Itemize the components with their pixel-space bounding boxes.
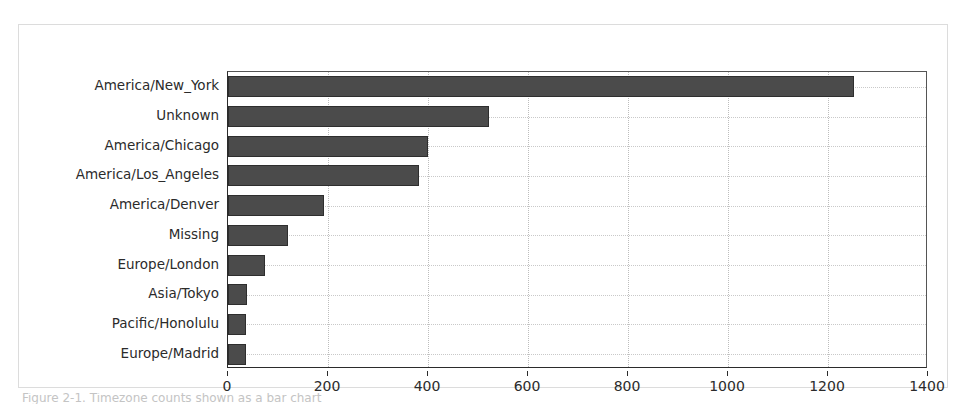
- x-axis-tick-label: 0: [223, 378, 232, 394]
- x-axis-tick-label: 800: [614, 378, 641, 394]
- y-axis-tick-label: America/Denver: [110, 194, 222, 215]
- x-axis-tick-mark: [227, 371, 228, 376]
- y-axis-tick-label: America/Los_Angeles: [76, 164, 222, 185]
- figure-frame: Europe/MadridPacific/HonoluluAsia/TokyoE…: [18, 24, 948, 388]
- bar-series: [228, 72, 926, 367]
- x-axis-tick-mark: [427, 371, 428, 376]
- x-axis-tick-mark: [527, 371, 528, 376]
- y-axis-tick-label: Asia/Tokyo: [148, 283, 222, 304]
- bar: [228, 195, 324, 216]
- bar: [228, 344, 246, 365]
- x-axis-tick-label: 1000: [709, 378, 745, 394]
- x-axis-tick-mark: [927, 371, 928, 376]
- y-axis-tick-label: America/New_York: [94, 75, 222, 96]
- y-axis-tick-label: Missing: [169, 224, 222, 245]
- y-axis-tick-label: Pacific/Honolulu: [112, 313, 222, 334]
- bar: [228, 225, 288, 246]
- y-axis-tick-label: America/Chicago: [105, 135, 223, 156]
- bar: [228, 284, 247, 305]
- bar: [228, 314, 246, 335]
- y-axis-tick-label: Unknown: [156, 105, 222, 126]
- bar: [228, 165, 419, 186]
- x-axis-tick-mark: [827, 371, 828, 376]
- x-axis-tick-mark: [727, 371, 728, 376]
- chart-page: Europe/MadridPacific/HonoluluAsia/TokyoE…: [0, 0, 966, 404]
- plot-area: [227, 71, 927, 368]
- y-axis-tick-label: Europe/Madrid: [121, 343, 222, 364]
- x-axis-tick-mark: [627, 371, 628, 376]
- x-axis-tick-label: 1400: [909, 378, 945, 394]
- bar: [228, 76, 854, 97]
- x-axis-tick-labels: 0200400600800100012001400: [227, 371, 927, 395]
- x-axis-tick-label: 200: [314, 378, 341, 394]
- bar: [228, 255, 265, 276]
- x-axis-tick-label: 1200: [809, 378, 845, 394]
- bar: [228, 136, 428, 157]
- figure-caption: Figure 2-1. Timezone counts shown as a b…: [22, 393, 442, 404]
- x-axis-tick-label: 600: [514, 378, 541, 394]
- y-axis-tick-label: Europe/London: [117, 254, 222, 275]
- bar: [228, 106, 489, 127]
- x-axis-tick-label: 400: [414, 378, 441, 394]
- y-axis-tick-labels: Europe/MadridPacific/HonoluluAsia/TokyoE…: [19, 71, 222, 368]
- x-axis-tick-mark: [327, 371, 328, 376]
